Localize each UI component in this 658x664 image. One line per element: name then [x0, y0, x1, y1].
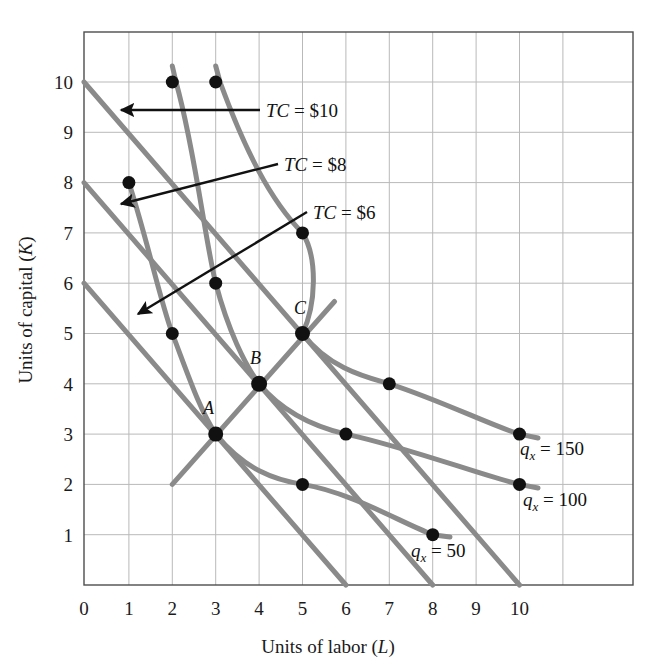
y-axis-tick-labels: 10 9 8 7 6 5 4 3 2 1: [54, 72, 74, 546]
y-tick-1: 1: [64, 525, 74, 546]
tc8-label-rest: = $8: [307, 154, 346, 175]
y-tick-9: 9: [64, 122, 74, 143]
y-tick-8: 8: [64, 172, 74, 193]
data-point: [166, 327, 179, 340]
data-point: [166, 76, 179, 89]
y-tick-5: 5: [64, 323, 74, 344]
tc6-label-italic: TC: [313, 202, 337, 223]
y-tick-7: 7: [64, 223, 74, 244]
y-tick-3: 3: [64, 424, 74, 445]
data-point: [209, 277, 222, 290]
data-point: [122, 176, 135, 189]
tc8-label: TC = $8: [284, 154, 346, 175]
point-label-c: C: [294, 298, 307, 318]
point-label-b: B: [250, 348, 261, 368]
q100-label-rest: = 100: [538, 489, 587, 510]
data-point-c: [295, 326, 310, 341]
x-axis-tick-labels: 0 1 2 3 4 5 6 7 8 9 10: [79, 598, 529, 619]
isoquant-isocost-figure: TC = $10 TC = $8 TC = $6 qx = 150 qx = 1…: [0, 0, 658, 664]
x-tick-3: 3: [211, 598, 221, 619]
data-point: [296, 226, 309, 239]
x-tick-7: 7: [385, 598, 395, 619]
x-axis-title: Units of labor (L): [261, 636, 395, 658]
y-tick-10: 10: [54, 72, 73, 93]
y-axis-title: Units of capital (K): [15, 236, 37, 383]
point-label-a: A: [202, 398, 215, 418]
chart-svg: TC = $10 TC = $8 TC = $6 qx = 150 qx = 1…: [0, 0, 658, 664]
q150-label-rest: = 150: [535, 438, 584, 459]
x-axis-title-italic: L: [377, 636, 389, 657]
y-axis-title-prefix: Units of capital (: [15, 255, 37, 383]
data-point: [383, 377, 396, 390]
tc8-label-italic: TC: [284, 154, 308, 175]
data-point: [339, 428, 352, 441]
x-tick-9: 9: [471, 598, 481, 619]
x-tick-6: 6: [341, 598, 351, 619]
y-axis-title-suffix: ): [15, 236, 37, 242]
tc6-label-rest: = $6: [336, 202, 375, 223]
q100-label-q: q: [523, 489, 533, 510]
x-tick-5: 5: [298, 598, 308, 619]
tc10-label: TC = $10: [266, 100, 338, 121]
data-point-b: [251, 376, 267, 392]
x-tick-1: 1: [124, 598, 134, 619]
x-axis-title-suffix: ): [388, 636, 394, 658]
y-tick-4: 4: [64, 374, 74, 395]
data-point: [296, 478, 309, 491]
tc10-label-italic: TC: [266, 100, 290, 121]
x-tick-4: 4: [254, 598, 264, 619]
x-tick-2: 2: [168, 598, 178, 619]
data-point: [209, 76, 222, 89]
x-tick-0: 0: [79, 598, 89, 619]
x-tick-8: 8: [428, 598, 438, 619]
q150-label-q: q: [520, 438, 530, 459]
q50-label-rest: = 50: [426, 540, 465, 561]
y-tick-6: 6: [64, 273, 74, 294]
x-axis-title-prefix: Units of labor (: [261, 636, 378, 658]
y-tick-2: 2: [64, 474, 74, 495]
x-tick-10: 10: [510, 598, 529, 619]
tc10-label-rest: = $10: [289, 100, 338, 121]
q50-label-q: q: [411, 540, 421, 561]
tc6-label: TC = $6: [313, 202, 375, 223]
data-point-a: [208, 427, 223, 442]
